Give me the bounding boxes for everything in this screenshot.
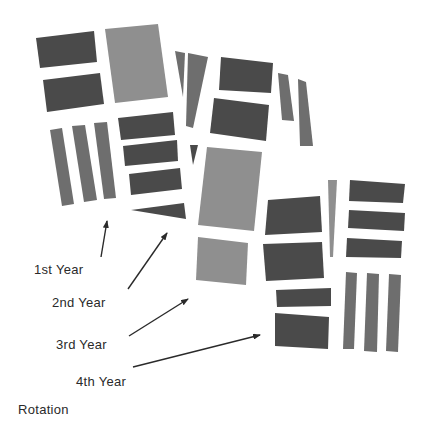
field-plot-dark bbox=[123, 140, 178, 166]
crop-rotation-diagram bbox=[0, 0, 439, 438]
field-plot-medium bbox=[343, 272, 357, 349]
arrow-4th-year-icon bbox=[133, 335, 260, 367]
block-1st-year bbox=[36, 24, 186, 219]
label-2nd-year: 2nd Year bbox=[52, 295, 106, 310]
field-plot-dark bbox=[276, 288, 331, 307]
field-plot-dark bbox=[263, 242, 324, 281]
block-4th-year bbox=[343, 272, 401, 352]
field-plot-medium bbox=[386, 274, 401, 352]
label-4th-year: 4th Year bbox=[76, 374, 126, 389]
arrow-2nd-year-icon bbox=[128, 233, 167, 289]
field-plot-light bbox=[198, 147, 262, 231]
field-plot-medium bbox=[186, 53, 208, 128]
field-plot-dark bbox=[346, 238, 402, 258]
arrow-3rd-year-icon bbox=[129, 299, 188, 336]
field-plot-dark bbox=[118, 112, 175, 140]
field-plot-medium bbox=[94, 122, 116, 199]
field-plot-medium bbox=[278, 73, 294, 121]
field-plot-light bbox=[105, 24, 168, 103]
field-plot-light bbox=[196, 237, 248, 285]
field-plot-dark bbox=[129, 168, 182, 195]
field-plot-light bbox=[328, 180, 337, 257]
label-1st-year: 1st Year bbox=[34, 262, 83, 277]
field-plot-dark bbox=[265, 196, 322, 235]
field-plot-medium bbox=[72, 125, 97, 202]
field-plot-dark bbox=[36, 31, 97, 68]
field-plot-dark bbox=[348, 210, 405, 231]
field-plot-dark bbox=[190, 145, 198, 165]
field-plot-medium bbox=[298, 79, 313, 146]
field-plot-dark bbox=[131, 203, 186, 219]
field-plot-dark bbox=[275, 313, 329, 349]
field-plot-medium bbox=[175, 51, 185, 97]
label-3rd-year: 3rd Year bbox=[56, 337, 107, 352]
field-plot-dark bbox=[43, 73, 104, 112]
field-plot-medium bbox=[50, 128, 74, 206]
block-3rd-year bbox=[263, 180, 405, 349]
arrow-1st-year-icon bbox=[101, 221, 107, 257]
field-plot-medium bbox=[364, 273, 379, 352]
field-plot-dark bbox=[210, 98, 269, 141]
field-plot-dark bbox=[349, 180, 405, 203]
field-plot-dark bbox=[219, 57, 273, 93]
rotation-caption: Rotation bbox=[18, 402, 69, 417]
